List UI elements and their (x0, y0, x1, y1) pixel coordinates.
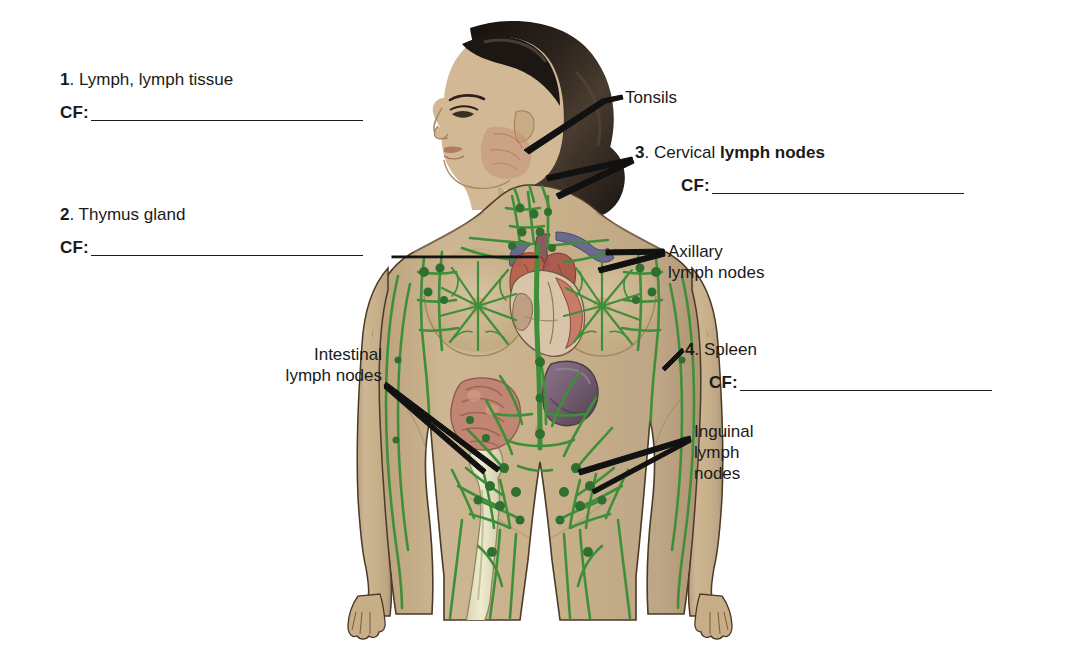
question-2-term: 2. Thymus gland (60, 205, 363, 225)
question-2-cf-row: CF: (60, 239, 363, 256)
question-3-term-bold: lymph nodes (720, 143, 825, 162)
question-1-cf-label: CF: (60, 104, 89, 121)
question-1-cf-answer-blank[interactable] (91, 107, 363, 121)
question-4: 4. Spleen CF: (685, 340, 992, 391)
question-3-cf-answer-blank[interactable] (712, 180, 964, 194)
question-3-cf-label: CF: (681, 177, 710, 194)
callout-tonsils: Tonsils (625, 87, 677, 108)
question-4-term-plain: Spleen (699, 340, 757, 359)
question-3-term-plain: Cervical (649, 143, 720, 162)
question-4-cf-row: CF: (709, 374, 992, 391)
callout-inguinal-line-3: nodes (694, 463, 754, 484)
question-1: 1. Lymph, lymph tissue CF: (60, 70, 363, 121)
question-4-term: 4. Spleen (685, 340, 992, 360)
question-2-cf-label: CF: (60, 239, 89, 256)
question-2-term-plain: Thymus gland (74, 205, 185, 224)
callout-tonsils-line-1: Tonsils (625, 87, 677, 108)
question-4-cf-answer-blank[interactable] (740, 377, 992, 391)
question-3-cf-row: CF: (681, 177, 964, 194)
callout-axillary-line-1: Axillary (668, 241, 764, 262)
callout-axillary-line-2: lymph nodes (668, 262, 764, 283)
callout-inguinal-line-2: lymph (694, 442, 754, 463)
callout-axillary-lymph-nodes: Axillary lymph nodes (668, 241, 764, 283)
callout-inguinal-line-1: Inguinal (694, 421, 754, 442)
question-4-cf-label: CF: (709, 374, 738, 391)
question-3-term: 3. Cervical lymph nodes (635, 143, 964, 163)
question-1-term-plain: Lymph, lymph tissue (74, 70, 233, 89)
callout-intestinal-line-2: lymph nodes (266, 365, 382, 386)
callout-intestinal-lymph-nodes: Intestinal lymph nodes (266, 344, 382, 386)
callout-intestinal-line-1: Intestinal (266, 344, 382, 365)
question-1-cf-row: CF: (60, 104, 363, 121)
question-3: 3. Cervical lymph nodes CF: (635, 143, 964, 194)
worksheet-page: 1. Lymph, lymph tissue CF: 2. Thymus gla… (0, 0, 1071, 650)
callout-inguinal-lymph-nodes: Inguinal lymph nodes (694, 421, 754, 484)
question-1-term: 1. Lymph, lymph tissue (60, 70, 363, 90)
question-2-cf-answer-blank[interactable] (91, 242, 363, 256)
question-2: 2. Thymus gland CF: (60, 205, 363, 256)
